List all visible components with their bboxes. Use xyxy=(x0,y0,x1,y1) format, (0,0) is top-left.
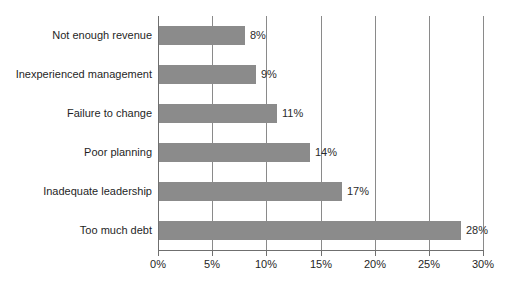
bar xyxy=(158,182,342,201)
x-axis-tick-label: 30% xyxy=(463,258,503,270)
bar-chart: Not enough revenue Inexperienced managem… xyxy=(0,0,517,285)
bar-value-label: 8% xyxy=(245,26,266,45)
bar-value-label: 14% xyxy=(310,143,337,162)
x-axis-tick xyxy=(483,251,484,256)
x-axis-tick xyxy=(158,251,159,256)
x-axis-tick-label: 10% xyxy=(246,258,286,270)
x-axis-tick-label: 0% xyxy=(138,258,178,270)
y-axis-line xyxy=(158,16,159,250)
bar-value-label: 28% xyxy=(461,221,488,240)
category-label: Failure to change xyxy=(0,94,152,133)
bar-row: 8% xyxy=(158,16,483,55)
x-axis-tick-label: 20% xyxy=(355,258,395,270)
x-axis-tick xyxy=(321,251,322,256)
bar-row: 9% xyxy=(158,55,483,94)
category-axis-labels: Not enough revenue Inexperienced managem… xyxy=(0,16,152,250)
x-axis-tick xyxy=(429,251,430,256)
bar xyxy=(158,221,461,240)
gridline xyxy=(483,16,484,250)
category-label: Inexperienced management xyxy=(0,55,152,94)
bar-value-label: 11% xyxy=(277,104,303,123)
bar-row: 14% xyxy=(158,133,483,172)
x-axis-tick-label: 5% xyxy=(192,258,232,270)
bar-row: 17% xyxy=(158,172,483,211)
bar-value-label: 17% xyxy=(342,182,369,201)
bar xyxy=(158,65,256,84)
category-label: Inadequate leadership xyxy=(0,172,152,211)
x-axis-tick xyxy=(212,251,213,256)
plot-area: 8% 9% 11% 14% 17% 28% xyxy=(158,16,483,250)
x-axis-tick-label: 25% xyxy=(409,258,449,270)
bar-row: 11% xyxy=(158,94,483,133)
x-axis-tick-label: 15% xyxy=(301,258,341,270)
bar-row: 28% xyxy=(158,211,483,250)
category-label: Not enough revenue xyxy=(0,16,152,55)
bar xyxy=(158,104,277,123)
x-axis-tick xyxy=(266,251,267,256)
category-label: Poor planning xyxy=(0,133,152,172)
bar-value-label: 9% xyxy=(256,65,277,84)
category-label: Too much debt xyxy=(0,211,152,250)
bar xyxy=(158,26,245,45)
bar xyxy=(158,143,310,162)
x-axis-tick xyxy=(375,251,376,256)
